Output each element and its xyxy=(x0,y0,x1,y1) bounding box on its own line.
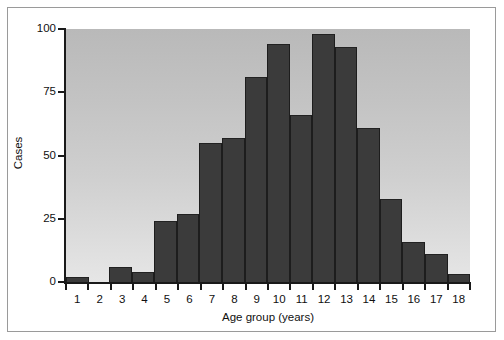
x-axis-tick-mark xyxy=(110,283,112,290)
x-axis-tick-mark xyxy=(87,283,89,290)
bar xyxy=(357,128,380,282)
bar xyxy=(222,138,245,282)
bar xyxy=(335,47,358,282)
x-axis-tick-mark xyxy=(65,283,67,290)
x-axis-tick-mark xyxy=(402,283,404,290)
x-axis-tick-mark xyxy=(469,283,471,290)
x-axis-tick-mark xyxy=(267,283,269,290)
x-axis-tick-mark xyxy=(132,283,134,290)
y-axis-tick-mark xyxy=(58,281,65,283)
x-axis-tick-mark xyxy=(447,283,449,290)
x-axis-tick-label: 18 xyxy=(445,293,473,306)
y-axis-title: Cases xyxy=(12,108,24,198)
x-axis-tick-mark xyxy=(312,283,314,290)
x-axis-tick-mark xyxy=(424,283,426,290)
histogram-figure: 0255075100 123456789101112131415161718 C… xyxy=(0,0,504,340)
y-axis-tick-label-wrap: 50 xyxy=(0,150,56,160)
x-axis-tick-mark xyxy=(177,283,179,290)
bar xyxy=(425,254,448,282)
bar xyxy=(312,34,335,282)
x-axis-tick-mark xyxy=(357,283,359,290)
bar-series xyxy=(66,29,470,282)
bar xyxy=(109,267,132,282)
x-axis-tick-mark xyxy=(155,283,157,290)
y-axis-tick-label-wrap: 75 xyxy=(0,86,56,96)
y-axis-tick-mark xyxy=(58,218,65,220)
x-axis-tick-mark xyxy=(289,283,291,290)
x-axis-tick-mark xyxy=(245,283,247,290)
x-axis-tick-mark xyxy=(379,283,381,290)
bar xyxy=(154,221,177,282)
y-axis-tick-mark xyxy=(58,155,65,157)
bar xyxy=(199,143,222,282)
x-axis-tick-mark xyxy=(200,283,202,290)
bar xyxy=(245,77,268,282)
y-axis-tick-mark xyxy=(58,91,65,93)
plot-area xyxy=(66,29,470,282)
bar xyxy=(177,214,200,282)
y-axis-tick-mark xyxy=(58,28,65,30)
bar xyxy=(132,272,155,282)
bar xyxy=(290,115,313,282)
bar xyxy=(448,274,470,282)
y-axis-tick-label: 0 xyxy=(4,276,56,286)
y-axis-tick-label: 75 xyxy=(4,86,56,96)
y-axis-tick-label-wrap: 25 xyxy=(0,213,56,223)
y-axis-tick-label-wrap: 0 xyxy=(0,276,56,286)
bar xyxy=(402,242,425,282)
y-axis-tick-label: 100 xyxy=(4,23,56,33)
bar xyxy=(267,44,290,282)
y-axis-tick-label-wrap: 100 xyxy=(0,23,56,33)
bar xyxy=(380,199,403,282)
x-axis-title: Age group (years) xyxy=(66,311,470,323)
y-axis-tick-label: 25 xyxy=(4,213,56,223)
x-axis-tick-mark xyxy=(222,283,224,290)
x-axis-tick-mark xyxy=(334,283,336,290)
